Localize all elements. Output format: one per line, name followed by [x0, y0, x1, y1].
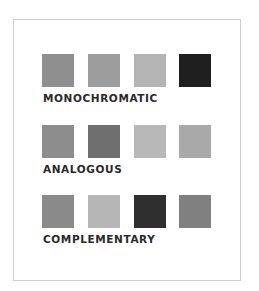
complementary-label: COMPLEMENTARY	[43, 233, 155, 245]
color-swatch	[42, 54, 74, 87]
color-swatch	[134, 125, 166, 158]
color-swatch	[134, 195, 166, 228]
color-swatch	[42, 125, 74, 158]
complementary-swatch-row	[42, 195, 212, 229]
monochromatic-swatch-row	[42, 54, 212, 88]
color-swatch	[179, 54, 211, 87]
analogous-swatch-row	[42, 125, 212, 159]
color-swatch	[179, 125, 211, 158]
color-swatch	[134, 54, 166, 87]
color-swatch	[88, 195, 120, 228]
color-swatch	[179, 195, 211, 228]
color-swatch	[88, 54, 120, 87]
color-swatch	[42, 195, 74, 228]
color-swatch	[88, 125, 120, 158]
analogous-label: ANALOGOUS	[43, 163, 122, 175]
monochromatic-label: MONOCHROMATIC	[43, 92, 158, 104]
